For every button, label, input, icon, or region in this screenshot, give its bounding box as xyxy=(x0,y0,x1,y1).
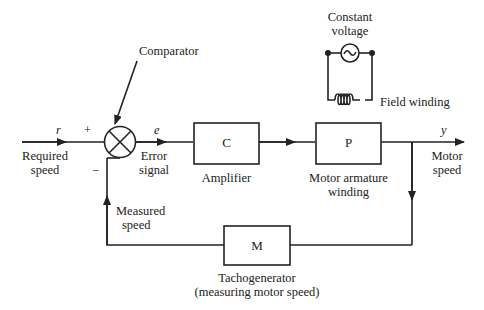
field-coil-icon xyxy=(335,94,360,105)
comparator-label: Comparator xyxy=(139,44,200,58)
input-label-line2: speed xyxy=(31,163,60,177)
amplifier-label: Amplifier xyxy=(202,171,252,185)
comparator-pointer-arrow xyxy=(115,61,137,124)
plus-sign: + xyxy=(84,123,91,137)
error-symbol: e xyxy=(154,123,160,137)
comparator-summing-junction xyxy=(105,127,136,158)
motor-label-line2: winding xyxy=(328,185,370,199)
control-diagram: Constant voltage Field winding r + Requi… xyxy=(0,0,484,310)
amplifier-symbol: C xyxy=(222,135,231,150)
source-label-line2: voltage xyxy=(332,24,369,38)
input-symbol: r xyxy=(56,123,61,137)
field-winding-label: Field winding xyxy=(380,95,451,109)
motor-label-line1: Motor armature xyxy=(309,171,388,185)
output-label-line2: speed xyxy=(433,163,462,177)
error-label-line2: signal xyxy=(139,163,169,177)
tachogenerator-symbol: M xyxy=(251,238,263,253)
minus-sign: − xyxy=(92,164,99,178)
source-label-line1: Constant xyxy=(328,10,373,24)
output-label-line1: Motor xyxy=(431,149,463,163)
tachogenerator-label-line1: Tachogenerator xyxy=(218,271,296,285)
measured-speed-label-line1: Measured xyxy=(116,204,166,218)
ac-source-icon xyxy=(341,44,359,62)
output-symbol: y xyxy=(439,123,447,137)
input-label-line1: Required xyxy=(22,149,69,163)
motor-symbol: P xyxy=(345,135,352,150)
error-label-line1: Error xyxy=(141,149,168,163)
field-circuit: Constant voltage Field winding xyxy=(325,10,451,109)
tachogenerator-label-line2: (measuring motor speed) xyxy=(195,285,320,299)
measured-speed-label-line2: speed xyxy=(122,218,151,232)
